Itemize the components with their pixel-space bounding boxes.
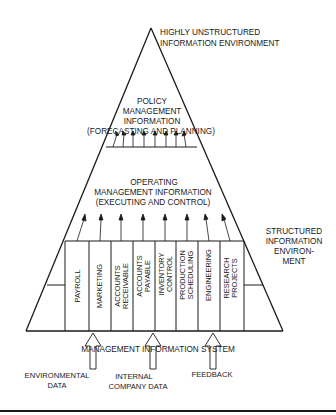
input-internal-line2: COMPANY DATA bbox=[109, 382, 169, 391]
apex-label-line2: INFORMATION ENVIRONMENT bbox=[160, 39, 279, 48]
svg-text:(EXECUTING AND CONTROL): (EXECUTING AND CONTROL) bbox=[96, 198, 211, 207]
svg-text:ENVIRON-: ENVIRON- bbox=[274, 247, 314, 256]
function-marketing: MARKETING bbox=[95, 264, 104, 308]
svg-text:OPERATING: OPERATING bbox=[130, 178, 178, 187]
function-accounts-receivable-2: RECEIVABLE bbox=[121, 263, 130, 309]
apex-label-line1: HIGHLY UNSTRUCTURED bbox=[160, 28, 260, 37]
operating-inflow-arrows bbox=[77, 214, 230, 241]
mis-base-label: MANAGEMENT INFORMATION SYSTEM bbox=[81, 345, 235, 354]
svg-text:POLICY: POLICY bbox=[137, 97, 168, 106]
svg-text:STRUCTURED: STRUCTURED bbox=[266, 227, 322, 236]
svg-text:MENT: MENT bbox=[282, 257, 305, 266]
input-environmental-line2: DATA bbox=[47, 381, 67, 390]
function-accounts-payable-2: PAYABLE bbox=[143, 260, 152, 292]
input-labels: ENVIRONMENTAL DATA INTERNAL COMPANY DATA… bbox=[25, 370, 233, 391]
function-inventory-control-2: CONTROL bbox=[165, 256, 174, 292]
input-environmental-line1: ENVIRONMENTAL bbox=[25, 371, 90, 380]
operating-level-label: OPERATING MANAGEMENT INFORMATION (EXECUT… bbox=[94, 178, 212, 207]
input-internal-line1: INTERNAL bbox=[115, 372, 153, 381]
function-labels: PAYROLL MARKETING ACCOUNTS RECEIVABLE AC… bbox=[73, 249, 239, 309]
input-feedback-line1: FEEDBACK bbox=[192, 370, 233, 379]
mis-pyramid-diagram: HIGHLY UNSTRUCTURED INFORMATION ENVIRONM… bbox=[0, 0, 336, 415]
function-payroll: PAYROLL bbox=[73, 270, 82, 303]
function-production-scheduling-2: SCHEDULING bbox=[186, 251, 195, 300]
svg-text:(FORECASTING AND PLANNING): (FORECASTING AND PLANNING) bbox=[87, 127, 215, 136]
svg-text:MANAGEMENT INFORMATION: MANAGEMENT INFORMATION bbox=[94, 188, 212, 197]
svg-text:INFORMATION: INFORMATION bbox=[124, 117, 181, 126]
structured-environment-label: STRUCTURED INFORMATION ENVIRON- MENT bbox=[266, 227, 323, 266]
svg-text:MANAGEMENT: MANAGEMENT bbox=[123, 107, 182, 116]
policy-level-label: POLICY MANAGEMENT INFORMATION (FORECASTI… bbox=[87, 97, 215, 136]
function-engineering: ENGINEERING bbox=[204, 249, 213, 301]
svg-text:INFORMATION: INFORMATION bbox=[266, 237, 323, 246]
function-research-projects-2: PROJECTS bbox=[230, 258, 239, 297]
